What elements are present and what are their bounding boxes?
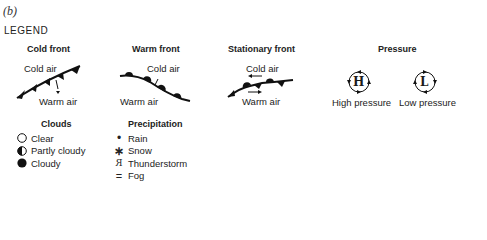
precipitation-item-label: Snow [128, 145, 152, 156]
precipitation-item-snow: ∗ Snow [114, 145, 187, 158]
precipitation-item-fog: = Fog [114, 170, 187, 183]
empty-circle-icon [17, 133, 27, 143]
fog-icon: = [114, 170, 124, 182]
clouds-title: Clouds [41, 119, 72, 129]
precipitation-item-thunderstorm: R Thunderstorm [114, 157, 187, 170]
clouds-item-cloudy: Cloudy [17, 157, 85, 170]
clouds-item-label: Cloudy [31, 158, 61, 169]
clouds-item-label: Clear [31, 133, 54, 144]
half-filled-circle-icon [17, 146, 27, 156]
filled-circle-icon [17, 158, 27, 168]
precipitation-item-label: Rain [128, 133, 148, 144]
clouds-list: Clear Partly cloudy Cloudy [17, 132, 85, 170]
low-pressure-label: Low pressure [399, 97, 456, 108]
asterisk-icon: ∗ [114, 144, 124, 158]
precipitation-item-label: Thunderstorm [128, 158, 187, 169]
clouds-item-label: Partly cloudy [31, 145, 85, 156]
low-pressure-symbol: L [420, 75, 428, 89]
precipitation-item-rain: • Rain [114, 132, 187, 145]
precipitation-list: • Rain ∗ Snow R Thunderstorm = Fog [114, 132, 187, 182]
clouds-item-clear: Clear [17, 132, 85, 145]
clouds-item-partly-cloudy: Partly cloudy [17, 145, 85, 158]
thunderstorm-icon: R [114, 158, 124, 168]
precipitation-item-label: Fog [128, 170, 144, 181]
precipitation-title: Precipitation [128, 119, 183, 129]
